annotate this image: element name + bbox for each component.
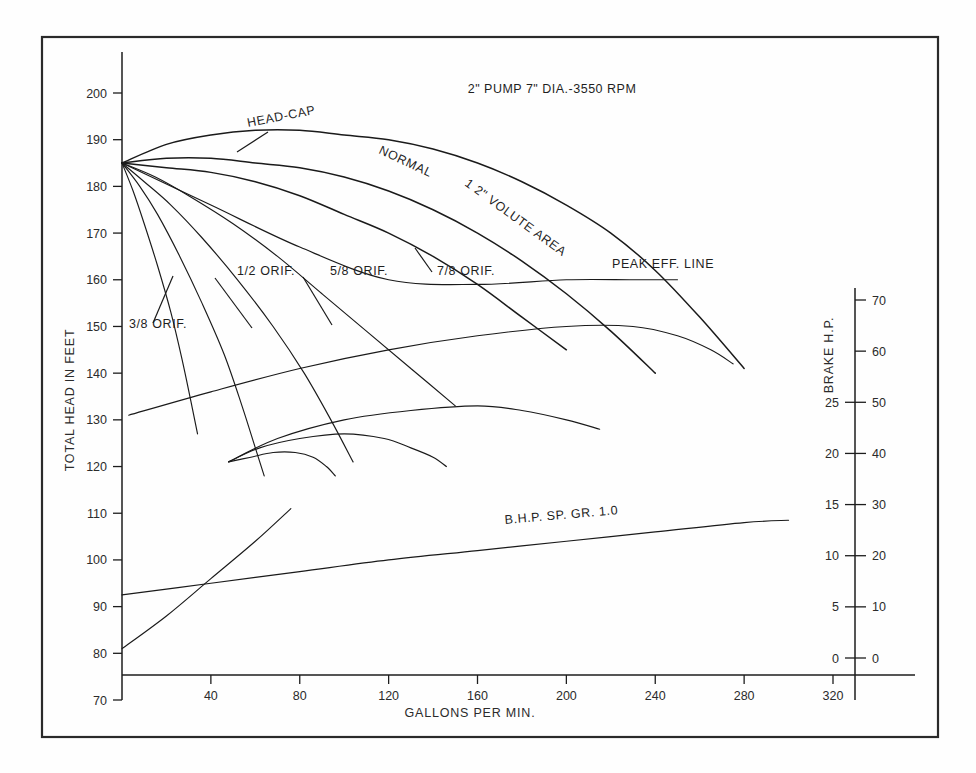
x-axis-title: GALLONS PER MIN.: [405, 706, 536, 720]
x-tick-label: 320: [823, 689, 844, 703]
x-tick-label: 160: [467, 689, 488, 703]
y-tick-label: 160: [86, 273, 107, 287]
label-orif-38: 3/8 ORIF.: [129, 317, 187, 331]
series-curve: [229, 452, 336, 476]
series-curve: [122, 163, 677, 285]
y2-tick-outer-label: 60: [872, 345, 886, 359]
series-curve: [122, 509, 291, 649]
y-tick-label: 180: [86, 180, 107, 194]
y2-tick-outer-label: 20: [872, 549, 886, 563]
y2-tick-outer-label: 70: [872, 294, 886, 308]
y-tick-label: 140: [86, 367, 107, 381]
label-orif-12: 1/2 ORIF.: [237, 264, 295, 278]
y2-tick-outer-label: 30: [872, 498, 886, 512]
label-volute-area: 1 2" VOLUTE AREA: [462, 176, 569, 259]
y2-tick-outer-label: 10: [872, 600, 886, 614]
series-curve: [129, 325, 733, 415]
y2-tick-inner-label: 25: [825, 396, 839, 410]
series-curve: [122, 163, 566, 350]
y2-axis-ticks-outer: 010203040506070: [855, 294, 886, 666]
x-tick-label: 280: [734, 689, 755, 703]
y-tick-label: 200: [86, 87, 107, 101]
x-tick-label: 240: [645, 689, 666, 703]
y2-tick-outer-label: 0: [872, 652, 879, 666]
y-tick-label: 150: [86, 320, 107, 334]
series-curve: [122, 163, 455, 406]
x-tick-label: 80: [293, 689, 307, 703]
y-axis-ticks: 708090100110120130140150160170180190200: [86, 87, 122, 708]
y2-tick-inner-label: 5: [832, 600, 839, 614]
x-tick-label: 200: [556, 689, 577, 703]
y2-tick-outer-label: 50: [872, 396, 886, 410]
y-tick-label: 170: [86, 227, 107, 241]
series-curve: [122, 158, 655, 373]
curve-annotations: HEAD-CAP NORMAL 1 2" VOLUTE AREA PEAK EF…: [129, 103, 714, 527]
leader-orif-12: [215, 278, 252, 328]
y-tick-label: 110: [87, 507, 107, 521]
y-tick-label: 120: [86, 460, 107, 474]
y2-axis-ticks-inner: 0510152025: [825, 396, 855, 666]
x-tick-label: 120: [378, 689, 399, 703]
series-curve: [122, 163, 198, 434]
label-orif-78: 7/8 ORIF.: [437, 264, 495, 278]
series-curve: [122, 163, 353, 462]
y-tick-label: 190: [86, 133, 107, 147]
y2-tick-inner-label: 10: [825, 549, 839, 563]
leader-orif-58: [303, 277, 332, 325]
label-peak-eff-line: PEAK EFF. LINE: [612, 257, 714, 271]
chart-canvas: 708090100110120130140150160170180190200 …: [0, 0, 976, 773]
y-tick-label: 130: [86, 413, 107, 427]
y-tick-label: 100: [86, 553, 107, 567]
y-tick-label: 70: [93, 694, 107, 708]
y2-tick-inner-label: 0: [832, 652, 839, 666]
leader-head-cap: [237, 132, 268, 152]
y-tick-label: 80: [93, 647, 107, 661]
y2-axis-title: BRAKE H.P.: [822, 317, 836, 394]
label-orif-58: 5/8 ORIF.: [330, 264, 388, 278]
chart-title: 2" PUMP 7" DIA.-3550 RPM: [468, 82, 637, 96]
y2-tick-inner-label: 20: [825, 447, 839, 461]
label-normal: NORMAL: [377, 143, 435, 180]
label-head-cap: HEAD-CAP: [246, 103, 317, 130]
y-tick-label: 90: [93, 600, 107, 614]
y2-tick-outer-label: 40: [872, 447, 886, 461]
pump-performance-chart: 708090100110120130140150160170180190200 …: [0, 0, 976, 773]
y2-tick-inner-label: 15: [825, 498, 839, 512]
label-bhp-line: B.H.P. SP. GR. 1.0: [504, 503, 619, 527]
x-axis-ticks: 4080120160200240280320: [204, 675, 844, 703]
y-axis-title: TOTAL HEAD IN FEET: [63, 329, 77, 472]
series-curves: [122, 130, 789, 649]
series-curve: [122, 520, 789, 595]
series-curve: [229, 434, 447, 467]
x-tick-label: 40: [204, 689, 218, 703]
series-curve: [229, 406, 600, 462]
